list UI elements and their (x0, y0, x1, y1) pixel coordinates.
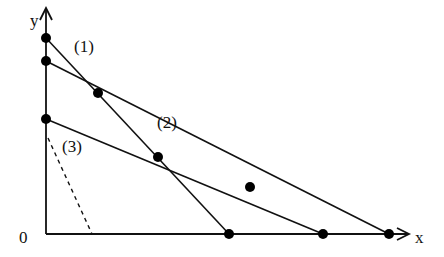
line-1 (46, 38, 229, 234)
y-axis-label: y (30, 11, 39, 30)
origin-label: 0 (19, 228, 28, 247)
x-axis-label: x (415, 228, 424, 247)
dot-x-intercept-1 (224, 229, 234, 239)
dot-intersection-1-2 (93, 88, 103, 98)
line-2 (46, 61, 389, 234)
line-3 (46, 119, 323, 234)
line-2-label: (2) (157, 113, 177, 132)
intersection-dots (41, 33, 394, 239)
dot-intersection-1-3 (153, 152, 163, 162)
dot-x-intercept-2 (384, 229, 394, 239)
dot-y-intercept-3 (41, 114, 51, 124)
line-3-label: (3) (62, 137, 82, 156)
dot-y-intercept-1 (41, 33, 51, 43)
dot-y-intercept-2 (41, 56, 51, 66)
dot-x-intercept-3 (318, 229, 328, 239)
line-1-label: (1) (74, 37, 94, 56)
dot-intersection-2-3 (245, 182, 255, 192)
diagram-canvas: y x 0 (1) (2) (3) (0, 0, 444, 257)
